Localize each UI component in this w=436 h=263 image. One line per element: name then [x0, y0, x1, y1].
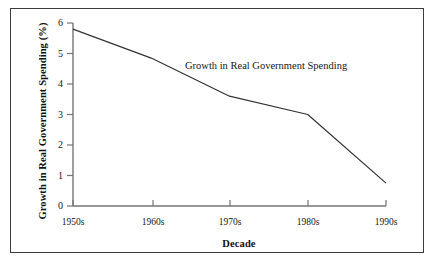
data-series-line [73, 29, 386, 183]
y-tick-marks [67, 23, 73, 206]
y-tick-label-1: 1 [49, 170, 63, 181]
x-tick-label-1950s: 1950s [50, 217, 96, 227]
x-tick-label-1960s: 1960s [130, 217, 176, 227]
figure-border: Growth in Real Government Spending (%) D… [10, 8, 424, 253]
y-tick-label-4: 4 [49, 78, 63, 89]
x-axis-title: Decade [176, 238, 302, 249]
x-tick-marks [73, 200, 386, 206]
x-tick-label-1970s: 1970s [207, 217, 253, 227]
series-annotation-label: Growth in Real Government Spending [185, 60, 347, 71]
y-axis-title: Growth in Real Government Spending (%) [37, 30, 48, 220]
y-tick-label-3: 3 [49, 109, 63, 120]
chart-figure: Growth in Real Government Spending (%) D… [0, 0, 436, 263]
y-tick-label-2: 2 [49, 139, 63, 150]
y-tick-label-0: 0 [49, 200, 63, 211]
y-tick-label-6: 6 [49, 17, 63, 28]
x-tick-label-1990s: 1990s [363, 217, 409, 227]
y-tick-label-5: 5 [49, 48, 63, 59]
x-tick-label-1980s: 1980s [285, 217, 331, 227]
